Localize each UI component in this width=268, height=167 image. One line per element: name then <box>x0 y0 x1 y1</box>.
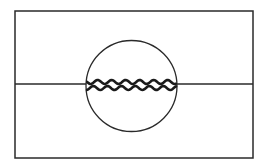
diagram <box>0 0 268 167</box>
diagram-canvas <box>0 0 268 167</box>
